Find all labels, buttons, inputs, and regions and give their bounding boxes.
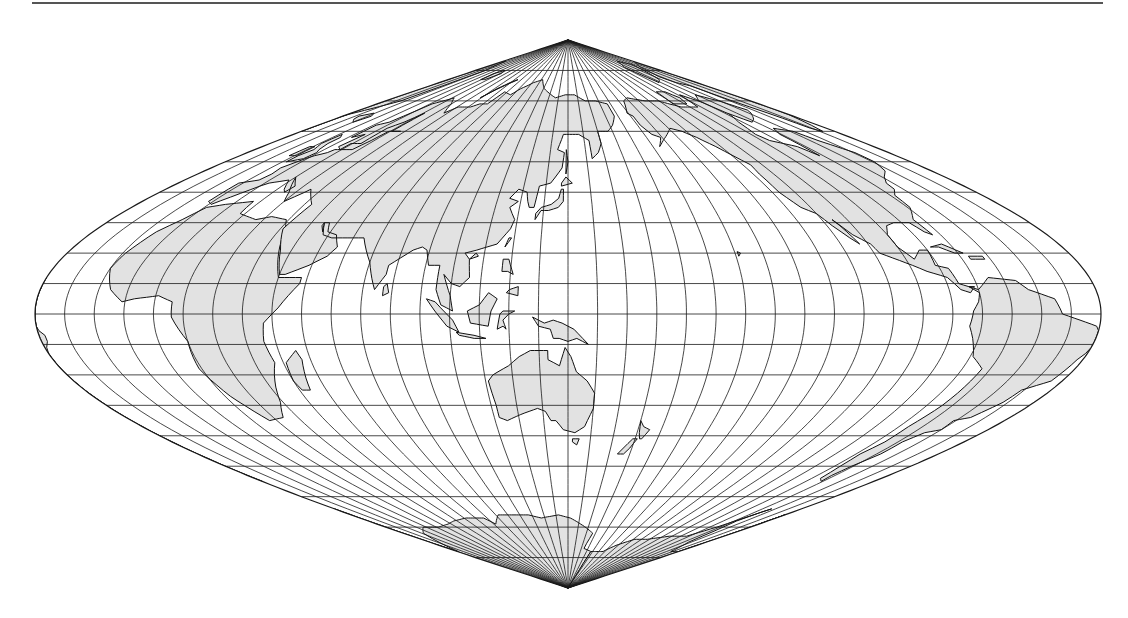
landmass-cuba: [930, 244, 963, 253]
land-layer: [35, 61, 1099, 588]
world-map: [0, 0, 1128, 618]
graticule-layer: [35, 40, 1101, 588]
landmass-japan: [535, 189, 564, 219]
landmass-madagascar: [286, 351, 310, 391]
landmass-taiwan: [505, 238, 512, 247]
landmass-tasmania: [572, 439, 579, 445]
landmass-sri-lanka: [383, 284, 389, 296]
landmass-philippines-mindanao: [506, 287, 518, 296]
landmass-hispaniola: [968, 256, 984, 259]
landmass-borneo: [467, 293, 497, 327]
landmass-new-guinea: [533, 317, 589, 344]
landmass-hainan: [469, 253, 478, 259]
landmass-hokkaido: [561, 177, 572, 186]
landmass-hawaii: [737, 252, 740, 257]
landmass-africa: [110, 201, 302, 420]
landmass-java: [456, 332, 486, 338]
